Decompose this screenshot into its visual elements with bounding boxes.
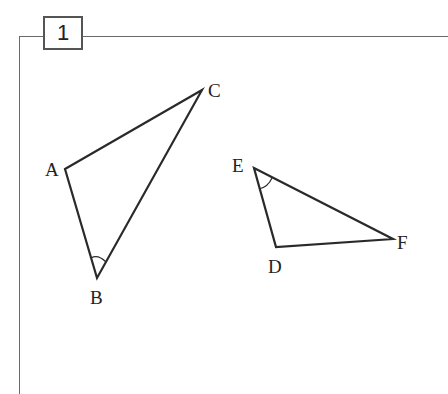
vertex-label-f: F [397, 233, 408, 252]
triangle-def [254, 168, 393, 247]
figure-canvas [0, 0, 448, 394]
vertex-label-a: A [45, 160, 59, 179]
vertex-label-e: E [232, 156, 244, 175]
angle-mark-e [259, 178, 272, 189]
vertex-label-d: D [268, 257, 282, 276]
triangle-abc [65, 90, 202, 278]
vertex-label-b: B [90, 288, 103, 307]
vertex-label-c: C [208, 81, 221, 100]
angle-mark-b [91, 257, 106, 262]
